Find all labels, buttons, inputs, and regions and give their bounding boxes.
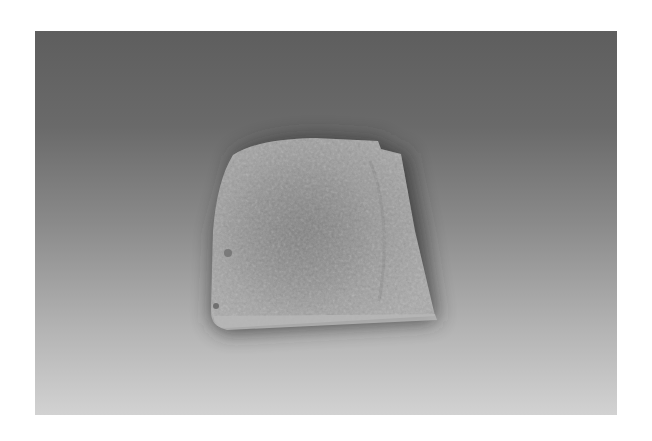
stone-texture <box>211 138 435 328</box>
stone-spot <box>224 249 232 257</box>
stone-artifact-illustration <box>35 31 617 415</box>
stone-spot <box>213 303 219 309</box>
photo-frame <box>35 31 617 415</box>
